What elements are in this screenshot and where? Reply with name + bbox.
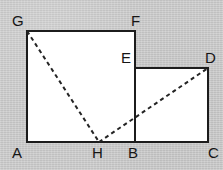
vertex-label-b: B [128,144,138,161]
vertex-label-e: E [121,49,131,66]
small-rectangle [135,68,208,142]
vertex-label-g: G [12,12,24,29]
vertex-label-d: D [205,49,216,66]
large-rectangle [27,31,135,142]
geometry-diagram: ABCDEFGH [0,0,223,170]
vertex-label-f: F [131,12,140,29]
vertex-label-c: C [208,144,219,161]
vertex-label-a: A [12,144,22,161]
vertex-label-h: H [92,144,103,161]
geometry-figure-canvas: ABCDEFGH [0,0,223,170]
